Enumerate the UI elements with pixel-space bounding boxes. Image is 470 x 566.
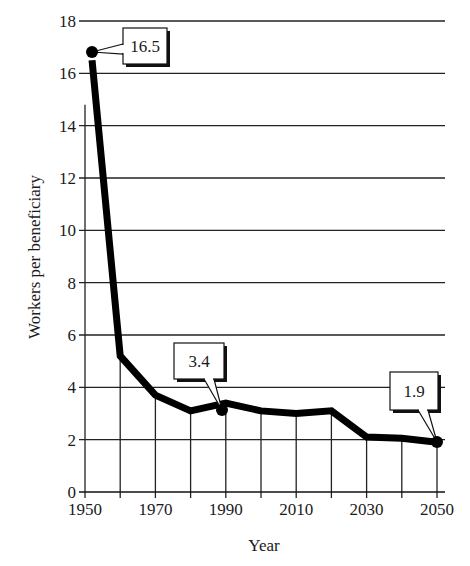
x-axis-title: Year [248, 536, 280, 555]
x-tick-label: 1950 [68, 500, 102, 519]
y-tick-label: 16 [59, 64, 76, 83]
y-tick-label: 4 [68, 378, 77, 397]
callout-label: 3.4 [188, 352, 210, 371]
data-point-marker [86, 46, 98, 58]
x-tick-label: 2030 [350, 500, 384, 519]
y-tick-labels: 024681012141618 [59, 12, 77, 502]
series-line [92, 60, 437, 442]
x-tick-label: 1990 [209, 500, 243, 519]
line-chart: 024681012141618 195019701990201020302050… [0, 0, 470, 566]
y-tick-label: 12 [59, 169, 76, 188]
callout-label: 1.9 [403, 382, 424, 401]
x-tick-labels: 195019701990201020302050 [68, 500, 454, 519]
y-tick-label: 10 [59, 221, 76, 240]
y-tick-label: 2 [68, 431, 77, 450]
y-tick-label: 18 [59, 12, 76, 31]
data-point-marker [431, 436, 443, 448]
data-series-line [92, 60, 437, 442]
y-axis-title: Workers per beneficiary [25, 175, 44, 339]
y-tick-label: 8 [68, 274, 77, 293]
x-tick-label: 2010 [279, 500, 313, 519]
callout-label: 16.5 [130, 37, 160, 56]
y-tick-label: 14 [59, 117, 77, 136]
x-tick-label: 1970 [138, 500, 172, 519]
y-tick-label: 6 [68, 326, 77, 345]
callout-16.5: 16.5 [86, 28, 170, 67]
x-tick-label: 2050 [420, 500, 454, 519]
data-point-marker [216, 404, 228, 416]
value-callouts: 16.53.41.9 [86, 28, 443, 448]
